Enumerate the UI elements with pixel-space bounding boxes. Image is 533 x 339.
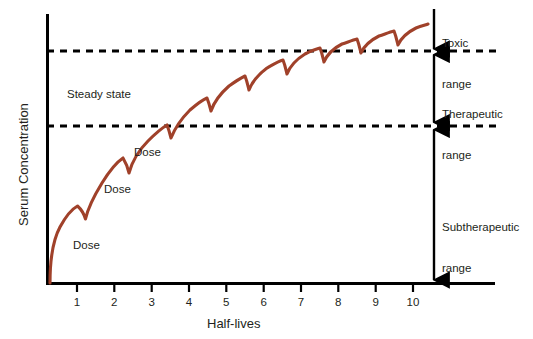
x-tick-label-6: 6 <box>254 296 274 310</box>
x-tick-label-1: 1 <box>67 296 87 310</box>
dose-annotation-2: Dose <box>104 183 131 197</box>
x-tick-label-9: 9 <box>366 296 386 310</box>
serum-concentration-curve <box>50 24 428 283</box>
toxic-range-label-line1: Toxic <box>442 37 471 51</box>
x-tick-label-7: 7 <box>291 296 311 310</box>
dose-annotation-1: Dose <box>73 239 100 253</box>
therapeutic-range-label-line2: range <box>442 149 503 163</box>
subtherapeutic-range-label-line2: range <box>442 262 519 276</box>
dose-annotation-3: Dose <box>134 146 161 160</box>
therapeutic-range-label: Therapeutic range <box>442 81 503 190</box>
concentration-curve-group <box>50 24 428 283</box>
x-tick-label-2: 2 <box>104 296 124 310</box>
axes-group <box>46 14 495 284</box>
x-tick-label-8: 8 <box>328 296 348 310</box>
therapeutic-range-label-line1: Therapeutic <box>442 108 503 122</box>
subtherapeutic-range-label-line1: Subtherapeutic <box>442 221 519 235</box>
x-tick-label-5: 5 <box>216 296 236 310</box>
pharmacokinetics-chart: 1 2 3 4 5 6 7 8 9 10 Half-lives Serum Co… <box>0 0 533 339</box>
x-tick-label-10: 10 <box>403 296 423 310</box>
x-tick-label-3: 3 <box>142 296 162 310</box>
subtherapeutic-range-label: Subtherapeutic range <box>442 194 519 303</box>
x-tick-label-4: 4 <box>179 296 199 310</box>
x-axis-title: Half-lives <box>207 316 260 331</box>
steady-state-annotation: Steady state <box>67 88 131 102</box>
y-axis-title: Serum Concentration <box>16 103 31 226</box>
